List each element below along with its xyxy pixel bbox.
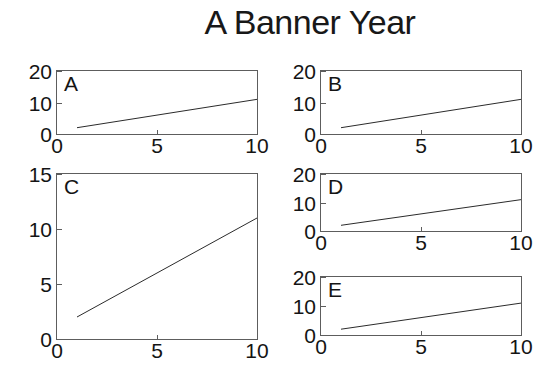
ytick-e-1 — [321, 306, 326, 307]
ytick-label-d-1: 10 — [293, 192, 316, 213]
figure-title: A Banner Year — [0, 2, 556, 42]
xtick-label-b-1: 5 — [415, 135, 427, 156]
subplot-c: C0510150510 — [56, 173, 258, 340]
ytick-label-c-3: 15 — [29, 164, 52, 185]
xtick-label-e-0: 0 — [315, 336, 327, 357]
ytick-label-c-1: 5 — [40, 274, 52, 295]
plot-area-b — [321, 71, 521, 134]
ytick-d-1 — [321, 203, 326, 204]
plot-area-c — [57, 174, 257, 339]
xtick-label-a-2: 10 — [245, 135, 268, 156]
data-line-c-0 — [77, 218, 257, 317]
plot-area-e — [321, 277, 521, 335]
ytick-label-e-1: 10 — [293, 296, 316, 317]
ytick-c-3 — [57, 174, 62, 175]
xtick-label-d-2: 10 — [509, 232, 532, 253]
xtick-label-b-0: 0 — [315, 135, 327, 156]
xtick-label-c-1: 5 — [151, 340, 163, 361]
xtick-label-e-2: 10 — [509, 336, 532, 357]
ytick-d-2 — [321, 174, 326, 175]
subplot-b: B010200510 — [320, 70, 522, 135]
data-line-a-0 — [77, 99, 257, 127]
xtick-label-c-2: 10 — [245, 340, 268, 361]
figure-canvas: A Banner Year A010200510 B010200510 C051… — [0, 0, 556, 387]
xtick-label-c-0: 0 — [51, 340, 63, 361]
ytick-c-2 — [57, 229, 62, 230]
ytick-label-e-2: 20 — [293, 267, 316, 288]
data-line-b-0 — [341, 99, 521, 127]
xtick-label-e-1: 5 — [415, 336, 427, 357]
figure-title-text: A Banner Year — [205, 2, 416, 42]
subplot-a: A010200510 — [56, 70, 258, 135]
ytick-label-a-2: 20 — [29, 61, 52, 82]
xtick-label-d-1: 5 — [415, 232, 427, 253]
ytick-label-a-1: 10 — [29, 92, 52, 113]
data-line-d-0 — [341, 200, 521, 226]
ytick-a-2 — [57, 71, 62, 72]
ytick-label-c-2: 10 — [29, 219, 52, 240]
xtick-label-a-0: 0 — [51, 135, 63, 156]
ytick-b-1 — [321, 103, 326, 104]
xtick-label-a-1: 5 — [151, 135, 163, 156]
ytick-label-d-2: 20 — [293, 164, 316, 185]
subplot-e: E010200510 — [320, 276, 522, 336]
ytick-e-2 — [321, 277, 326, 278]
subplot-d: D010200510 — [320, 173, 522, 232]
plot-area-a — [57, 71, 257, 134]
ytick-a-1 — [57, 103, 62, 104]
ytick-label-b-1: 10 — [293, 92, 316, 113]
xtick-label-d-0: 0 — [315, 232, 327, 253]
data-line-e-0 — [341, 303, 521, 329]
ytick-label-b-2: 20 — [293, 61, 316, 82]
ytick-c-1 — [57, 284, 62, 285]
xtick-label-b-2: 10 — [509, 135, 532, 156]
ytick-b-2 — [321, 71, 326, 72]
plot-area-d — [321, 174, 521, 231]
